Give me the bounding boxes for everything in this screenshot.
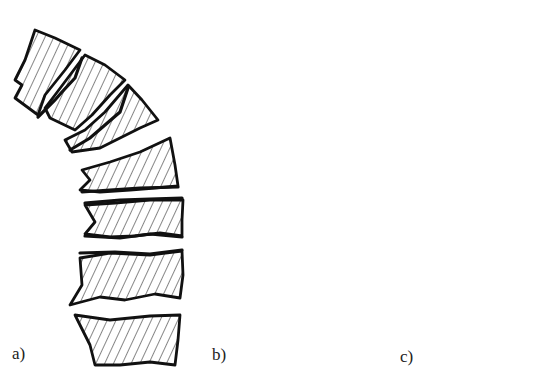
vertebra-a5 [85, 200, 183, 237]
spine-drawing [0, 0, 537, 382]
gap-a6 [80, 250, 182, 254]
spine-figure: a) b) c) [0, 0, 537, 382]
vertebra-a7 [75, 315, 180, 365]
panel-a [15, 30, 183, 365]
panel-c-label: c) [400, 348, 413, 365]
panel-a-label: a) [12, 345, 25, 362]
panel-b-label: b) [212, 346, 226, 363]
vertebra-a6 [70, 251, 183, 305]
